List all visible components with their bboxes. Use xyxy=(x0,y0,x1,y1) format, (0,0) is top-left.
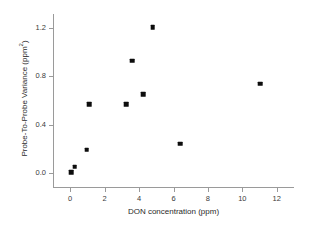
x-tick-mark xyxy=(139,188,140,192)
x-tick-label: 12 xyxy=(265,194,289,203)
x-tick-mark xyxy=(105,188,106,192)
data-point xyxy=(178,141,183,146)
x-tick-mark xyxy=(277,188,278,192)
data-point xyxy=(258,81,263,86)
x-tick-mark xyxy=(242,188,243,192)
data-point xyxy=(72,164,77,169)
data-point xyxy=(87,102,92,107)
data-point xyxy=(151,25,156,30)
x-tick-mark xyxy=(208,188,209,192)
data-point xyxy=(130,59,135,64)
x-tick-label: 4 xyxy=(127,194,151,203)
x-axis-title: DON concentration (ppm) xyxy=(53,207,294,216)
x-tick-label: 0 xyxy=(58,194,82,203)
plot-area xyxy=(53,14,294,185)
x-tick-mark xyxy=(70,188,71,192)
x-tick-label: 8 xyxy=(196,194,220,203)
y-axis-title-base: Probe-To-Probe Variance (ppm xyxy=(20,46,29,156)
x-tick-label: 6 xyxy=(162,194,186,203)
data-point xyxy=(124,102,129,107)
data-point xyxy=(69,170,74,175)
x-tick-label: 10 xyxy=(230,194,254,203)
x-tick-mark xyxy=(174,188,175,192)
data-point xyxy=(141,92,146,97)
scatter-plot-figure: 024681012 0.00.40.81.2 DON concentration… xyxy=(0,0,311,240)
x-tick-label: 2 xyxy=(93,194,117,203)
y-axis-title: Probe-To-Probe Variance (ppm2) xyxy=(20,9,29,189)
data-point xyxy=(84,147,89,152)
y-axis-title-superscript: 2 xyxy=(18,43,24,46)
y-axis-title-tail: ) xyxy=(20,40,29,43)
